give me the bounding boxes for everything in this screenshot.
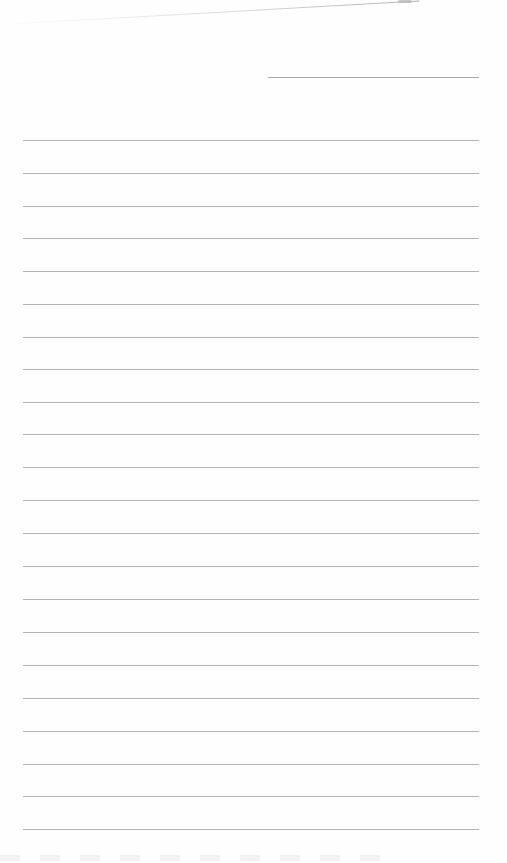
- ruled-line: [23, 467, 479, 468]
- ruled-line: [23, 566, 479, 567]
- ruled-line: [23, 731, 479, 732]
- ruled-line: [23, 599, 479, 600]
- ruled-line: [23, 500, 479, 501]
- ruled-line: [23, 369, 479, 370]
- ruled-line: [23, 304, 479, 305]
- ruled-line: [23, 337, 479, 338]
- ruled-line: [23, 271, 479, 272]
- lined-paper-page: [0, 0, 507, 863]
- ruled-line: [23, 665, 479, 666]
- ruled-line: [23, 698, 479, 699]
- ruled-line: [23, 796, 479, 797]
- ruled-line: [23, 206, 479, 207]
- ruled-line: [23, 173, 479, 174]
- ruled-line: [23, 402, 479, 403]
- bleed-through-marks: [0, 855, 400, 861]
- ruled-line: [23, 764, 479, 765]
- ruled-line: [23, 533, 479, 534]
- page-edge-mark: [398, 0, 412, 3]
- ruled-line: [23, 829, 479, 830]
- page-edge-shadow: [0, 1, 419, 25]
- header-date-line: [268, 77, 479, 78]
- ruled-line: [23, 632, 479, 633]
- ruled-line: [23, 434, 479, 435]
- ruled-line: [23, 140, 479, 141]
- ruled-line: [23, 238, 479, 239]
